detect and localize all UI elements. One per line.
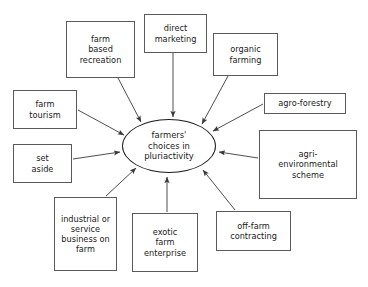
node-industrial-or-service-business-on-farm[interactable]: industrial or service business on farm [54,197,117,271]
arrow-set-aside-to-center [73,152,120,159]
arrow-farm-tourism-to-center [78,110,124,135]
center-node-label: farmers' choices in pluriactivity [144,130,194,163]
node-label-agro-forestry: agro-forestry [276,98,333,108]
arrow-farm-based-recreation-to-center [118,78,141,122]
node-label-exotic-farm-enterprise: exotic farm enterprise [142,227,188,258]
node-set-aside[interactable]: set aside [13,144,72,183]
arrow-industrial-business-to-center [106,168,136,196]
node-label-off-farm-contracting: off-farm contracting [228,221,279,242]
node-label-industrial-or-service-business-on-farm: industrial or service business on farm [59,214,112,255]
arrow-agri-environmental-scheme-to-center [219,152,258,158]
node-label-direct-marketing: direct marketing [153,23,199,44]
node-agri-environmental-scheme[interactable]: agri- environmental scheme [259,130,357,199]
concept-map-diagram: farmers' choices in pluriactivity farm b… [0,0,368,287]
node-farm-tourism[interactable]: farm tourism [13,90,77,129]
arrow-agro-forestry-to-center [213,104,263,131]
node-direct-marketing[interactable]: direct marketing [144,14,207,53]
node-label-farm-based-recreation: farm based recreation [78,34,124,65]
node-label-agri-environmental-scheme: agri- environmental scheme [276,149,339,180]
arrow-organic-farming-to-center [202,76,228,124]
node-label-set-aside: set aside [30,153,56,174]
farmers-choices-ellipse: farmers' choices in pluriactivity [122,119,216,173]
node-organic-farming[interactable]: organic farming [213,33,278,76]
node-agro-forestry[interactable]: agro-forestry [264,93,346,114]
arrow-off-farm-contracting-to-center [203,170,235,210]
node-exotic-farm-enterprise[interactable]: exotic farm enterprise [132,213,198,272]
node-farm-based-recreation[interactable]: farm based recreation [66,21,135,78]
node-label-farm-tourism: farm tourism [27,99,62,120]
node-label-organic-farming: organic farming [228,44,264,65]
node-off-farm-contracting[interactable]: off-farm contracting [216,211,291,251]
